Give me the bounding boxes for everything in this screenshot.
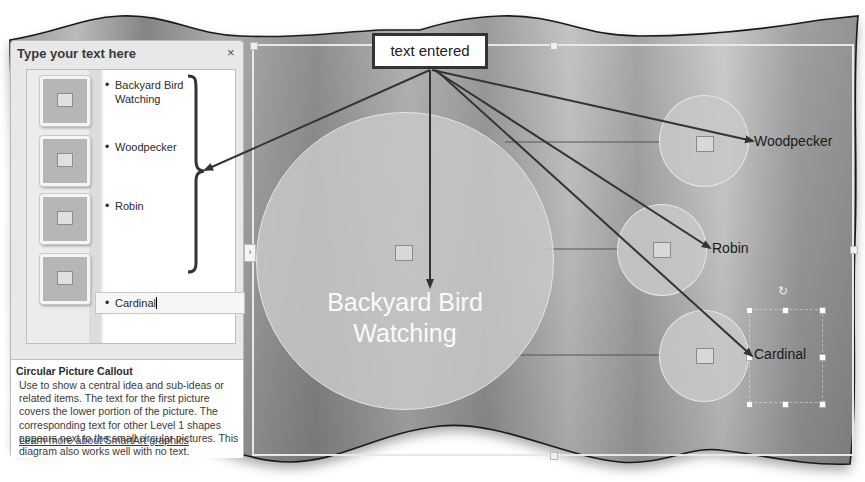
selection-handle[interactable] xyxy=(782,307,789,314)
text-pane-toggle[interactable]: › xyxy=(244,244,256,262)
selection-handle[interactable] xyxy=(819,401,826,408)
picture-icon xyxy=(57,211,73,225)
picture-placeholder-icon[interactable] xyxy=(696,348,714,364)
pane-title: Type your text here xyxy=(17,46,136,61)
rotate-handle-icon[interactable]: ↻ xyxy=(778,284,788,298)
resize-handle-top[interactable] xyxy=(550,42,558,50)
learn-more-link[interactable]: Learn more about SmartArt graphics xyxy=(19,434,189,446)
selection-handle[interactable] xyxy=(746,401,753,408)
text-pane: Type your text here × Backyard Bird Watc… xyxy=(10,40,244,458)
layout-name: Circular Picture Callout xyxy=(16,365,133,377)
picture-icon xyxy=(57,271,73,285)
text-caret xyxy=(156,297,157,309)
selected-textbox[interactable] xyxy=(749,309,823,403)
main-picture-circle[interactable] xyxy=(256,112,554,410)
layout-description-text: Use to show a central idea and sub-ideas… xyxy=(19,379,241,458)
bullet-item[interactable]: Backyard Bird Watching xyxy=(115,78,215,106)
resize-handle-top-left[interactable] xyxy=(250,42,258,50)
selection-handle[interactable] xyxy=(819,354,826,361)
robin-label[interactable]: Robin xyxy=(712,240,749,256)
resize-handle-bottom[interactable] xyxy=(550,452,558,460)
selection-handle[interactable] xyxy=(782,401,789,408)
text-entry-area[interactable]: Backyard Bird Watching Woodpecker Robin … xyxy=(26,69,236,344)
picture-thumbnail[interactable] xyxy=(40,76,90,126)
picture-thumbnail[interactable] xyxy=(40,194,90,244)
selection-handle[interactable] xyxy=(746,354,753,361)
picture-thumbnail[interactable] xyxy=(40,136,90,186)
annotation-callout: text entered xyxy=(372,33,488,69)
bullet-item[interactable]: Woodpecker xyxy=(115,140,215,154)
close-icon[interactable]: × xyxy=(227,45,235,60)
bullet-item[interactable]: Cardinal xyxy=(115,296,215,310)
selection-handle[interactable] xyxy=(819,307,826,314)
picture-thumbnail[interactable] xyxy=(40,254,90,304)
selection-handle[interactable] xyxy=(746,307,753,314)
picture-icon xyxy=(57,93,73,107)
main-circle-label[interactable]: Backyard Bird Watching xyxy=(300,287,510,349)
bullet-item[interactable]: Robin xyxy=(115,199,215,213)
picture-placeholder-icon[interactable] xyxy=(395,245,413,261)
picture-placeholder-icon[interactable] xyxy=(653,242,671,258)
resize-handle-right[interactable] xyxy=(850,246,858,254)
picture-icon xyxy=(57,153,73,167)
picture-placeholder-icon[interactable] xyxy=(696,136,714,152)
woodpecker-label[interactable]: Woodpecker xyxy=(754,133,832,149)
